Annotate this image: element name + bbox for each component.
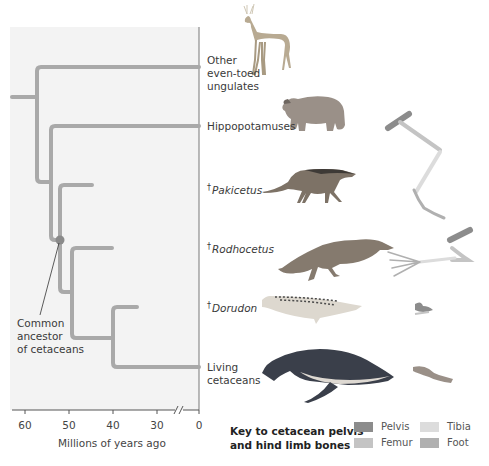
extinct-dagger-icon: † [207, 183, 211, 192]
label-other-even-toed-ungulates: Other even-toed ungulates [207, 54, 260, 93]
rodhocetus-illustration [278, 239, 394, 281]
dorudon-illustration [262, 296, 362, 324]
annotation-line: Common [17, 317, 84, 330]
key-title-line: Key to cetacean pelvis [230, 424, 363, 438]
label-line: Hippopotamuses [207, 120, 296, 132]
key-label: Femur [381, 437, 413, 448]
label-hippopotamuses: Hippopotamuses [207, 120, 296, 133]
extinct-dagger-icon: † [207, 242, 211, 251]
label-line: ungulates [207, 80, 260, 93]
living-cetacean-pelvis [413, 366, 453, 383]
rodhocetus-hindlimb [388, 230, 470, 276]
tick-label-0: 0 [196, 419, 203, 431]
phylogeny-figure: Other even-toed ungulates Hippopotamuses… [0, 0, 489, 466]
key-item-femur: Femur [354, 437, 413, 448]
label-rodhocetus: †Rodhocetus [207, 240, 274, 256]
axis-title: Millions of years ago [58, 437, 166, 449]
tick-label-30: 30 [150, 419, 163, 431]
common-ancestor-annotation: Common ancestor of cetaceans [17, 317, 84, 356]
dorudon-hindlimb [415, 302, 433, 314]
label-line: cetaceans [207, 374, 261, 387]
annotation-line: ancestor [17, 330, 84, 343]
key-title: Key to cetacean pelvis and hind limb bon… [230, 424, 363, 452]
key-label: Foot [447, 437, 469, 448]
key-item-tibia: Tibia [420, 421, 471, 432]
label-line: Dorudon [212, 302, 257, 314]
key-title-line: and hind limb bones [230, 438, 363, 452]
common-ancestor-node [56, 236, 65, 245]
pakicetus-hindlimb [388, 114, 444, 218]
tick-label-40: 40 [106, 419, 119, 431]
tick-label-50: 50 [62, 419, 75, 431]
tick-label-60: 60 [18, 419, 31, 431]
label-line: Rodhocetus [212, 243, 274, 255]
label-line: Other [207, 54, 260, 67]
key-label: Pelvis [381, 421, 410, 432]
pelvis-swatch [354, 422, 373, 432]
label-line: Pakicetus [212, 184, 262, 196]
femur-swatch [354, 438, 373, 448]
foot-swatch [420, 438, 439, 448]
label-line: even-toed [207, 67, 260, 80]
whale-illustration [262, 349, 394, 403]
label-living-cetaceans: Living cetaceans [207, 361, 261, 387]
pakicetus-illustration [262, 169, 356, 203]
annotation-line: of cetaceans [17, 343, 84, 356]
label-pakicetus: †Pakicetus [207, 181, 262, 197]
extinct-dagger-icon: † [207, 301, 211, 310]
label-line: Living [207, 361, 261, 374]
key-item-pelvis: Pelvis [354, 421, 410, 432]
key-label: Tibia [447, 421, 471, 432]
tibia-swatch [420, 422, 439, 432]
key-item-foot: Foot [420, 437, 469, 448]
label-dorudon: †Dorudon [207, 299, 257, 315]
